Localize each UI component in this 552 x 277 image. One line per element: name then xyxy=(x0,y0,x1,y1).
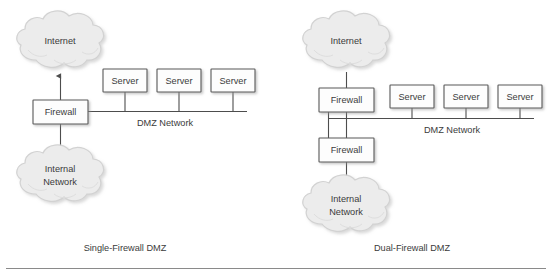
server-label-right-3: Server xyxy=(506,92,533,102)
node-server-left-2[interactable]: Server xyxy=(157,69,201,92)
server-label-right-1: Server xyxy=(398,92,425,102)
caption-single-firewall: Single-Firewall DMZ xyxy=(84,243,167,253)
node-server-right-1[interactable]: Server xyxy=(390,85,434,108)
node-firewall-right-2[interactable]: Firewall xyxy=(319,138,374,162)
cloud-label-internet-right: Internet xyxy=(330,36,362,46)
server-label-right-2: Server xyxy=(452,92,479,102)
node-server-right-3[interactable]: Server xyxy=(498,85,542,108)
cloud-label-internal-right-line2: Network xyxy=(329,207,363,217)
diagram-canvas: Internet Firewall Server Server Server D… xyxy=(0,0,552,277)
cloud-label-internal-left-line1: Internal xyxy=(45,164,76,174)
cloud-label-internet-left: Internet xyxy=(44,36,76,46)
node-server-right-2[interactable]: Server xyxy=(444,85,488,108)
firewall-label-right-2: Firewall xyxy=(331,145,363,155)
network-dmz-figure: Internet Firewall Server Server Server D… xyxy=(0,0,552,277)
firewall-label-left-1: Firewall xyxy=(45,107,77,117)
node-firewall-right-1[interactable]: Firewall xyxy=(319,88,374,112)
node-server-left-3[interactable]: Server xyxy=(211,69,255,92)
cloud-label-internal-right-line1: Internal xyxy=(331,194,362,204)
server-label-left-1: Server xyxy=(111,76,138,86)
node-firewall-left-1[interactable]: Firewall xyxy=(33,100,88,124)
cloud-label-internal-left-line2: Network xyxy=(43,177,77,187)
caption-dual-firewall: Dual-Firewall DMZ xyxy=(374,243,450,253)
dmz-network-label-left: DMZ Network xyxy=(137,118,194,128)
dmz-network-label-right: DMZ Network xyxy=(424,125,481,135)
server-label-left-2: Server xyxy=(165,76,192,86)
server-label-left-3: Server xyxy=(219,76,246,86)
node-server-left-1[interactable]: Server xyxy=(103,69,147,92)
diagram-single-firewall: Internet Firewall Server Server Server D… xyxy=(17,11,255,253)
firewall-label-right-1: Firewall xyxy=(331,95,363,105)
diagram-dual-firewall: Internet Firewall Firewall Server Server xyxy=(303,11,542,253)
